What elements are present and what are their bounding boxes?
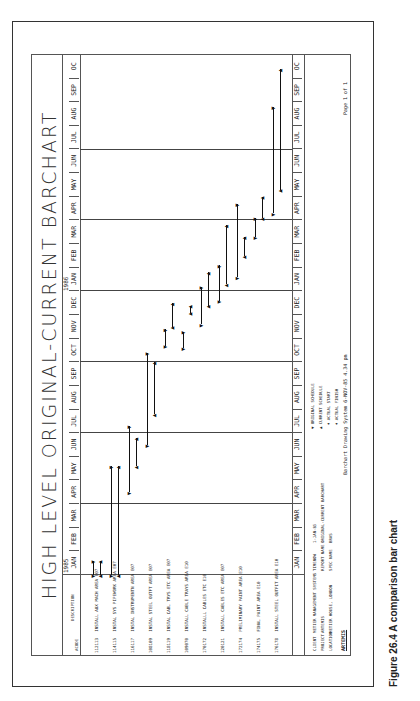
- description-header: DESCRIPTION: [70, 595, 75, 622]
- original-marker-icon: ▼: [180, 347, 186, 351]
- current-marker-icon: ▲: [169, 326, 175, 330]
- current-marker-icon: ▲: [115, 574, 121, 578]
- gridline: [80, 432, 292, 433]
- legend-actual-start: ♦ ACTUAL START: [326, 391, 331, 425]
- month-axis-bottom: JANFEBMARAPRMAYJUNJULAUGSEPOCTNOVDECJANF…: [292, 55, 302, 575]
- original-marker-icon: ▼: [144, 352, 150, 356]
- task-row: 108109INSTAL STEEL OUTFT AREA E07: [148, 564, 153, 653]
- year-label: 1985: [62, 559, 69, 573]
- month-tick: FEB: [292, 528, 302, 552]
- original-marker-icon: ▼: [198, 286, 204, 290]
- month-tick: JUN: [292, 433, 302, 457]
- month-tick: MAR: [69, 504, 79, 528]
- month-tick: AUG: [69, 102, 79, 126]
- system-line: Barchart Drawing System 6-NOV-85 4.34 pm: [342, 355, 348, 475]
- original-marker-icon: ▼: [252, 236, 258, 240]
- month-tick: JUN: [69, 433, 79, 457]
- month-tick: OC: [292, 55, 302, 79]
- original-marker-icon: ▼: [234, 203, 240, 207]
- month-tick: APR: [292, 197, 302, 221]
- original-schedule-bar: [129, 426, 130, 492]
- original-marker-icon: ▼: [180, 331, 186, 335]
- original-marker-icon: ▼: [234, 277, 240, 281]
- current-marker-icon: ▲: [259, 217, 265, 221]
- month-tick: OCT: [292, 339, 302, 363]
- acode: 116117: [130, 638, 135, 653]
- month-tick: MAR: [292, 220, 302, 244]
- month-tick: MAY: [292, 457, 302, 481]
- original-schedule-bar: [111, 466, 112, 575]
- original-marker-icon: ▼: [216, 265, 222, 269]
- month-tick: JAN: [292, 268, 302, 292]
- month-tick: JUL: [292, 126, 302, 150]
- original-marker-icon: ▼: [270, 213, 276, 217]
- current-marker-icon: ▲: [151, 414, 157, 418]
- chart-title: HIGH LEVEL ORIGINAL-CURRENT BARCHART: [38, 55, 60, 655]
- original-marker-icon: ▼: [144, 444, 150, 448]
- task-row: 112113INSTALL AUX MACH AREA E07: [94, 569, 99, 653]
- acode-header: ACODE: [74, 639, 79, 651]
- rotated-page: HIGH LEVEL ORIGINAL-CURRENT BARCHART ACO…: [0, 0, 420, 701]
- original-marker-icon: ▼: [126, 492, 132, 496]
- timenow-value: 1-JAN-85: [312, 524, 317, 543]
- current-schedule-bar: [154, 362, 155, 414]
- page-indicator: Page 1 of 1: [342, 82, 348, 115]
- timenow-label: TIMENOW: [312, 554, 317, 571]
- spec-value: BRAS: [328, 533, 333, 543]
- gridline: [80, 149, 292, 150]
- acode: 120121: [220, 638, 225, 653]
- client-label: CLIENT: [312, 637, 317, 651]
- current-marker-icon: ▲: [205, 305, 211, 309]
- legend-current: ▲ CURRENT SCHEDULE: [318, 386, 323, 429]
- month-tick: MAY: [69, 173, 79, 197]
- task-row: 172174PRELIMINARY PAINT AREA E10: [238, 566, 243, 653]
- month-tick: SEP: [69, 79, 79, 103]
- original-schedule-bar: [147, 353, 148, 445]
- acode: 114115: [112, 638, 117, 653]
- month-tick: APR: [292, 480, 302, 504]
- task-row: 170172INSTALLL CABLES ETC E10: [202, 574, 207, 653]
- current-schedule-bar: [226, 225, 227, 284]
- month-tick: DEC: [292, 291, 302, 315]
- location-value: METIER HOUSE, LONDON: [328, 585, 333, 633]
- spec-label: SPEC NAME: [328, 549, 333, 571]
- current-marker-icon: ▲: [187, 312, 193, 316]
- project-value: ARTEMIS: [320, 616, 325, 633]
- current-marker-icon: ▲: [115, 466, 121, 470]
- current-marker-icon: ▲: [277, 189, 283, 193]
- report-label: REPORT NAME -: [320, 540, 325, 571]
- current-marker-icon: ▲: [223, 284, 229, 288]
- artemis-logo: ARTEMIS: [340, 630, 346, 651]
- month-tick: APR: [69, 197, 79, 221]
- month-tick: SEP: [292, 362, 302, 386]
- description: INSTALL AUX MACH AREA E07: [94, 569, 99, 632]
- figure-caption: Figure 26.4 A comparison bar chart: [388, 520, 399, 687]
- month-tick: SEP: [292, 79, 302, 103]
- current-marker-icon: ▲: [133, 466, 139, 470]
- original-marker-icon: ▼: [162, 345, 168, 349]
- month-tick: JUL: [292, 410, 302, 434]
- current-marker-icon: ▲: [97, 574, 103, 578]
- current-schedule-bar: [208, 272, 209, 305]
- acode: 109070: [184, 638, 189, 653]
- original-marker-icon: ▼: [198, 324, 204, 328]
- month-tick: JUN: [292, 149, 302, 173]
- current-schedule-bar: [118, 466, 119, 575]
- current-marker-icon: ▲: [151, 362, 157, 366]
- acode: 176178: [274, 638, 279, 653]
- description: INSTALLL CABLES ETC E10: [202, 574, 207, 632]
- task-row: 174175FINAL PAINT AREA E10: [256, 581, 261, 653]
- acode: 112113: [94, 638, 99, 653]
- project-label: PROJECT: [320, 634, 325, 651]
- acode: 172174: [238, 638, 243, 653]
- original-schedule-bar: [219, 265, 220, 300]
- client-value: METIER MANAGEMENT SYSTEMS: [312, 573, 317, 633]
- original-marker-icon: ▼: [216, 300, 222, 304]
- current-marker-icon: ▲: [277, 69, 283, 73]
- current-marker-icon: ▲: [241, 255, 247, 259]
- month-tick: FEB: [69, 244, 79, 268]
- current-schedule-bar: [172, 303, 173, 327]
- description: PRELIMINARY PAINT AREA E10: [238, 566, 243, 632]
- original-schedule-bar: [201, 287, 202, 325]
- task-row: 109070INSTALL CABLE TRAYS AREA E10: [184, 561, 189, 653]
